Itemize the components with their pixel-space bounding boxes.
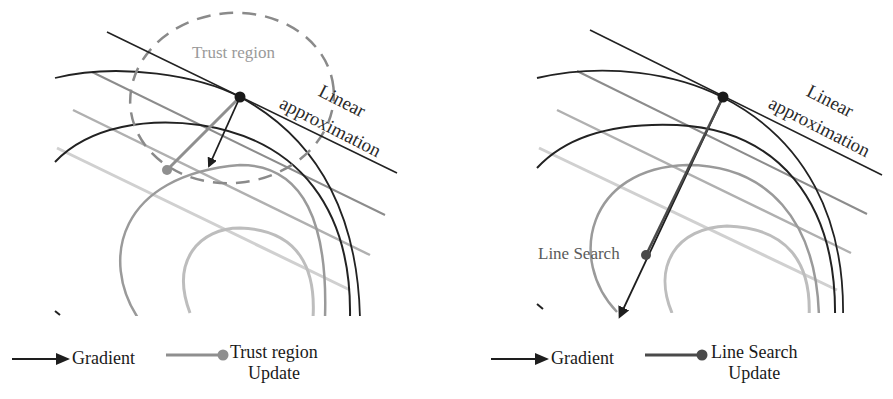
trust-region-label: Trust region — [192, 43, 275, 63]
legend-trust-update-text: Trust region Update — [230, 342, 318, 384]
legend-trust-update — [166, 348, 230, 362]
legend-update-line1: Line Search — [711, 342, 797, 363]
arrow-icon — [491, 352, 549, 366]
trust-region-update-point — [162, 165, 172, 175]
trust-region-panel: Trust region Linear approximation Gradie… — [0, 0, 446, 399]
line-search-legend: Gradient Line Search Update — [447, 338, 893, 388]
trust-region-update-line — [167, 97, 240, 170]
legend-line-search-update — [645, 348, 709, 362]
current-point — [718, 92, 729, 103]
line-search-label: Line Search — [538, 244, 620, 264]
line-dot-icon — [645, 348, 709, 362]
trust-region-legend: Gradient Trust region Update — [0, 338, 446, 388]
arrow-icon — [12, 352, 70, 366]
legend-gradient: Gradient — [491, 348, 614, 369]
legend-gradient-label: Gradient — [551, 348, 614, 369]
legend-line-search-update-text: Line Search Update — [711, 342, 797, 384]
legend-gradient: Gradient — [12, 348, 135, 369]
legend-gradient-label: Gradient — [72, 348, 135, 369]
legend-update-line1: Trust region — [230, 342, 318, 363]
line-search-panel: Linear approximation Line Search Gradien… — [447, 0, 893, 399]
contour-arc-black-inner — [537, 125, 835, 318]
arc-fragment — [55, 311, 60, 315]
current-point — [235, 92, 246, 103]
line-search-point — [641, 250, 651, 260]
arc-fragment — [537, 304, 543, 309]
contour-arc-inner — [665, 226, 809, 318]
contour-arc-medium — [120, 165, 325, 318]
legend-update-line2: Update — [248, 363, 300, 384]
line-dot-icon — [166, 348, 230, 362]
legend-update-line2: Update — [728, 363, 780, 384]
